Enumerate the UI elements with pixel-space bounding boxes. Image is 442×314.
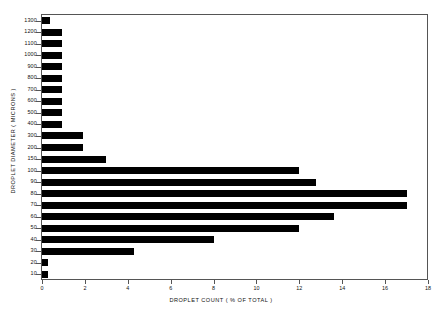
bar-row xyxy=(42,109,428,116)
bar-1000 xyxy=(42,52,62,59)
bar-100 xyxy=(42,167,299,174)
bar-row xyxy=(42,86,428,93)
bar-row xyxy=(42,167,428,174)
y-tick-mark-600 xyxy=(36,101,41,102)
bar-50 xyxy=(42,225,299,232)
y-tick-mark-40 xyxy=(36,240,41,241)
x-tick-mark-4 xyxy=(128,280,129,284)
bar-row xyxy=(42,271,428,278)
y-tick-mark-500 xyxy=(36,113,41,114)
y-tick-mark-60 xyxy=(36,217,41,218)
bar-600 xyxy=(42,98,62,105)
bar-row xyxy=(42,144,428,151)
y-tick-mark-1000 xyxy=(36,55,41,56)
x-tick-mark-0 xyxy=(42,280,43,284)
y-tick-mark-400 xyxy=(36,124,41,125)
droplet-size-distribution-chart: 1300120011001000900800700600500400300200… xyxy=(0,0,442,314)
bar-row xyxy=(42,190,428,197)
bar-500 xyxy=(42,109,62,116)
bar-row xyxy=(42,121,428,128)
bar-row xyxy=(42,248,428,255)
x-tick-label-16: 16 xyxy=(382,286,388,291)
y-tick-mark-90 xyxy=(36,182,41,183)
bar-1100 xyxy=(42,40,62,47)
y-tick-mark-100 xyxy=(36,171,41,172)
x-tick-label-4: 4 xyxy=(126,286,129,291)
bar-400 xyxy=(42,121,62,128)
y-axis-ticks: 1300120011001000900800700600500400300200… xyxy=(0,0,41,294)
x-tick-mark-18 xyxy=(428,280,429,284)
bar-row xyxy=(42,202,428,209)
bar-row xyxy=(42,98,428,105)
bar-150 xyxy=(42,156,106,163)
y-tick-mark-200 xyxy=(36,148,41,149)
y-tick-mark-150 xyxy=(36,159,41,160)
bar-90 xyxy=(42,179,316,186)
bar-1300 xyxy=(42,17,50,24)
bar-row xyxy=(42,52,428,59)
x-tick-mark-14 xyxy=(342,280,343,284)
y-tick-mark-300 xyxy=(36,136,41,137)
x-tick-mark-2 xyxy=(85,280,86,284)
x-tick-mark-10 xyxy=(256,280,257,284)
bar-row xyxy=(42,17,428,24)
bar-300 xyxy=(42,132,83,139)
bar-800 xyxy=(42,75,62,82)
y-tick-mark-50 xyxy=(36,228,41,229)
bar-10 xyxy=(42,271,48,278)
x-tick-mark-6 xyxy=(171,280,172,284)
bar-30 xyxy=(42,248,134,255)
bar-row xyxy=(42,236,428,243)
bar-row xyxy=(42,259,428,266)
bar-row xyxy=(42,225,428,232)
y-tick-mark-1200 xyxy=(36,32,41,33)
x-tick-mark-12 xyxy=(299,280,300,284)
bar-row xyxy=(42,132,428,139)
y-tick-mark-20 xyxy=(36,263,41,264)
bar-row xyxy=(42,29,428,36)
bar-40 xyxy=(42,236,214,243)
x-tick-mark-8 xyxy=(214,280,215,284)
bar-200 xyxy=(42,144,83,151)
bar-row xyxy=(42,179,428,186)
x-tick-mark-16 xyxy=(385,280,386,284)
bar-60 xyxy=(42,213,334,220)
bar-20 xyxy=(42,259,48,266)
y-tick-mark-900 xyxy=(36,67,41,68)
x-tick-label-6: 6 xyxy=(169,286,172,291)
bar-900 xyxy=(42,63,62,70)
x-tick-label-18: 18 xyxy=(425,286,431,291)
y-tick-mark-1300 xyxy=(36,21,41,22)
bar-row xyxy=(42,156,428,163)
x-tick-label-0: 0 xyxy=(41,286,44,291)
y-tick-mark-80 xyxy=(36,194,41,195)
bar-70 xyxy=(42,202,407,209)
x-tick-label-12: 12 xyxy=(296,286,302,291)
x-tick-label-14: 14 xyxy=(339,286,345,291)
bar-1200 xyxy=(42,29,62,36)
y-tick-mark-1100 xyxy=(36,44,41,45)
y-tick-mark-10 xyxy=(36,274,41,275)
bar-80 xyxy=(42,190,407,197)
y-tick-mark-70 xyxy=(36,205,41,206)
bar-700 xyxy=(42,86,62,93)
bar-row xyxy=(42,75,428,82)
bar-row xyxy=(42,40,428,47)
x-tick-label-8: 8 xyxy=(212,286,215,291)
y-tick-mark-30 xyxy=(36,251,41,252)
bar-row xyxy=(42,63,428,70)
bar-row xyxy=(42,213,428,220)
bars-layer xyxy=(42,15,428,280)
y-tick-mark-800 xyxy=(36,78,41,79)
x-tick-label-10: 10 xyxy=(253,286,259,291)
x-axis-title: DROPLET COUNT ( % OF TOTAL ) xyxy=(0,298,442,304)
y-tick-mark-700 xyxy=(36,90,41,91)
y-axis-title: DROPLET DIAMETER ( MICRONS ) xyxy=(11,71,17,211)
x-tick-label-2: 2 xyxy=(83,286,86,291)
